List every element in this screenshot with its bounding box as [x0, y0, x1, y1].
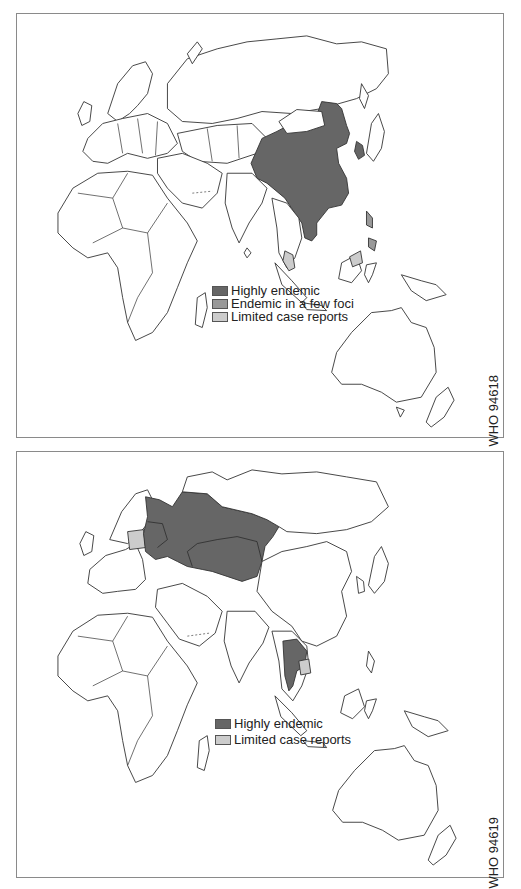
uk	[80, 532, 94, 556]
legend-item-limited: Limited case reports	[215, 733, 351, 746]
china	[257, 542, 352, 647]
world-map-1	[17, 14, 503, 437]
map-panel-2: Highly endemic Limited case reports WHO …	[16, 451, 504, 878]
swatch-highly-endemic	[215, 719, 231, 729]
cambodia-limited	[299, 659, 311, 675]
philippines	[366, 651, 374, 673]
europe	[83, 114, 178, 164]
japan	[368, 547, 388, 594]
legend-2: Highly endemic Limited case reports	[215, 717, 351, 746]
europe	[88, 544, 146, 594]
swatch-limited	[215, 735, 231, 745]
india	[225, 173, 267, 243]
legend-1: Highly endemic Endemic in a few foci Lim…	[212, 284, 354, 323]
scandinavia	[108, 62, 153, 122]
figure-id-code: WHO 94618	[486, 375, 501, 447]
sulawesi	[365, 263, 377, 283]
philippines-few-foci-2	[368, 238, 376, 251]
swatch-highly-endemic	[212, 286, 228, 296]
sri-lanka	[244, 248, 251, 258]
new-guinea	[404, 711, 448, 737]
new-guinea	[401, 275, 446, 301]
middle-east	[155, 583, 222, 646]
poland-limited	[128, 530, 146, 550]
africa	[58, 613, 197, 782]
new-zealand	[428, 825, 456, 865]
world-map-2	[17, 452, 503, 877]
borneo	[341, 689, 365, 719]
figure-id-code: WHO 94619	[486, 817, 501, 889]
legend-label: Limited case reports	[234, 733, 351, 746]
swatch-limited	[212, 312, 228, 322]
legend-label: Limited case reports	[231, 310, 348, 323]
india	[224, 611, 269, 683]
japan	[366, 114, 384, 162]
uk	[78, 102, 92, 126]
map-panel-1: Highly endemic Endemic in a few foci Lim…	[16, 13, 504, 438]
madagascar	[197, 736, 209, 771]
legend-label: Highly endemic	[234, 717, 323, 730]
legend-item-highly-endemic: Highly endemic	[215, 717, 351, 730]
korea-highly-endemic	[355, 141, 365, 159]
australia	[333, 746, 439, 841]
new-zealand	[426, 387, 454, 427]
korea	[357, 576, 365, 593]
legend-item-limited: Limited case reports	[212, 310, 354, 323]
sulawesi	[365, 699, 377, 719]
madagascar	[195, 293, 207, 328]
swatch-few-foci	[212, 299, 228, 309]
philippines-few-foci	[366, 211, 372, 228]
borneo-limited	[350, 251, 363, 267]
tasmania	[396, 407, 404, 417]
